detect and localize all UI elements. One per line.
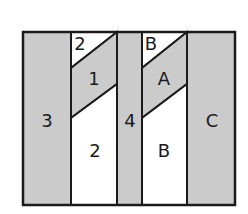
label-piece-3: 3 [41,110,52,131]
label-piece-a: A [158,68,171,89]
label-piece-c: C [206,110,219,131]
quilt-block-diagram: 3 2 1 2 4 B A B C [0,0,248,214]
label-piece-2-bottom: 2 [89,140,100,161]
label-piece-1: 1 [88,68,99,89]
label-piece-4: 4 [124,110,135,131]
label-piece-b-bottom: B [158,140,170,161]
label-piece-b-top: B [145,33,157,54]
label-piece-2-top: 2 [74,33,85,54]
